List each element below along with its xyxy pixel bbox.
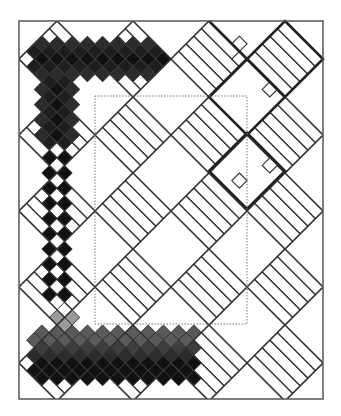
outlined-block bbox=[209, 133, 285, 209]
pieced-block bbox=[247, 21, 323, 97]
pieced-block bbox=[247, 325, 323, 401]
outline-segment bbox=[209, 59, 247, 97]
pieced-block bbox=[95, 97, 171, 173]
extra-cell bbox=[232, 173, 247, 188]
extra-cell bbox=[232, 51, 247, 66]
quilt-canvas bbox=[0, 0, 341, 416]
outlined-blocks bbox=[209, 21, 323, 209]
pieced-block bbox=[171, 249, 247, 325]
pieced-block bbox=[247, 97, 323, 173]
extra-cell bbox=[262, 82, 277, 97]
quilt-diagram bbox=[0, 0, 341, 416]
pieced-block bbox=[247, 173, 323, 249]
pieced-block bbox=[171, 97, 247, 173]
extra-cell bbox=[232, 36, 247, 51]
outlined-block bbox=[247, 21, 323, 97]
dark-band-cells bbox=[27, 36, 202, 386]
pieced-block bbox=[95, 249, 171, 325]
pieced-block bbox=[247, 249, 323, 325]
pieced-block bbox=[95, 173, 171, 249]
